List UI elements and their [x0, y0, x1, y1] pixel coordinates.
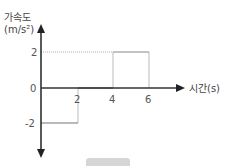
- x-tick-4: 4: [109, 94, 115, 105]
- y-axis-unit: (m/s²): [4, 24, 34, 35]
- acceleration-time-graph: 가속도 (m/s²) 시간(s) 2 0 -2 2 4 6: [0, 0, 226, 166]
- y-tick-neg2: -2: [25, 118, 35, 129]
- y-axis-arrow-down-icon: [37, 149, 45, 158]
- y-tick-0: 0: [30, 83, 36, 94]
- x-tick-2: 2: [74, 94, 80, 105]
- x-axis-label: 시간(s): [189, 83, 220, 94]
- x-tick-6: 6: [145, 94, 151, 105]
- x-axis-arrow-icon: [176, 84, 185, 92]
- y-axis-arrow-up-icon: [37, 24, 45, 33]
- y-tick-2: 2: [31, 47, 37, 58]
- y-axis-label: 가속도: [4, 12, 31, 23]
- bottom-scroll-handle[interactable]: [86, 158, 130, 166]
